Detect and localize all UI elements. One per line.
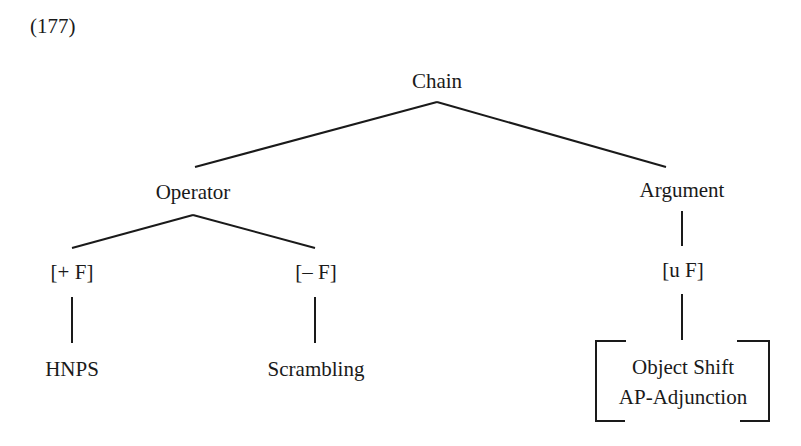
leaf-ap-adjunction: AP-Adjunction bbox=[619, 382, 747, 412]
node-minus-f: [– F] bbox=[295, 262, 336, 283]
edge-operator-minusf bbox=[193, 215, 315, 248]
leaf-object-shift: Object Shift bbox=[619, 352, 747, 382]
node-u-f: [u F] bbox=[662, 260, 703, 281]
node-plus-f: [+ F] bbox=[51, 262, 94, 283]
edge-chain-operator bbox=[195, 102, 437, 167]
bracketed-leaves: Object Shift AP-Adjunction bbox=[619, 352, 747, 412]
node-operator: Operator bbox=[156, 182, 231, 203]
leaf-hnps: HNPS bbox=[45, 359, 99, 380]
node-chain: Chain bbox=[412, 71, 462, 92]
edge-operator-plusf bbox=[72, 215, 193, 248]
leaf-scrambling: Scrambling bbox=[268, 359, 365, 380]
node-argument: Argument bbox=[640, 180, 725, 201]
edge-chain-argument bbox=[437, 102, 666, 167]
